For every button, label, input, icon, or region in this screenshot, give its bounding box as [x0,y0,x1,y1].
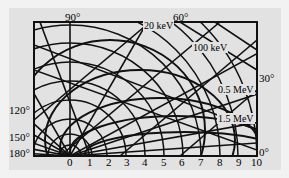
x-axis-ticks: 0 1 2 3 4 5 6 7 8 9 10 [9,156,281,170]
angle-label-90: 90° [65,11,80,23]
x-tick-3: 3 [124,156,130,168]
x-tick-2: 2 [106,156,112,168]
polar-diagram: 90° 60° 30° 0° 120° 150° 180° 20 keV 100… [9,8,281,170]
x-tick-1: 1 [87,156,93,168]
x-tick-9: 9 [236,156,242,168]
x-tick-7: 7 [198,156,204,168]
angle-label-30: 30° [259,72,274,84]
angle-label-60: 60° [173,11,188,23]
energy-label-1-5mev: 1.5 MeV [217,113,255,124]
angle-label-150: 150° [9,131,30,143]
x-tick-4: 4 [142,156,148,168]
x-tick-0: 0 [67,156,73,168]
x-tick-6: 6 [179,156,185,168]
energy-label-100kev: 100 keV [192,42,228,53]
energy-label-20kev: 20 keV [143,20,174,31]
x-tick-5: 5 [161,156,167,168]
x-tick-8: 8 [217,156,223,168]
angle-label-120: 120° [9,104,30,116]
x-tick-10: 10 [251,156,262,168]
energy-label-0-5mev: 0.5 MeV [217,84,255,95]
